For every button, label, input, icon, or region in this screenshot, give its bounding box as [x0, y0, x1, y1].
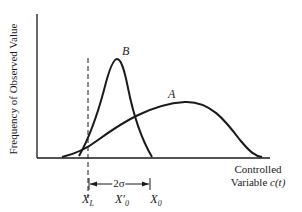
- xl-label: XL: [82, 192, 94, 208]
- curve-b-label: B: [122, 44, 129, 59]
- x-axis-label: Controlled Variable c(t): [220, 163, 296, 189]
- two-sigma-label: 2σ: [112, 177, 125, 189]
- x0-prime-label: X′0: [115, 192, 129, 208]
- arrow-left-icon: [90, 182, 97, 187]
- arrow-right-icon: [142, 182, 149, 187]
- x0-label: X0: [150, 192, 161, 208]
- y-axis-label: Frequency of Observed Value: [6, 14, 20, 164]
- curve-b: [79, 59, 152, 157]
- curve-a-label: A: [168, 87, 175, 102]
